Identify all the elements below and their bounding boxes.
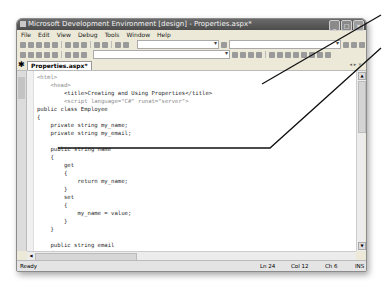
favorites-icon[interactable] — [73, 52, 79, 58]
undo-icon[interactable] — [94, 42, 100, 48]
code-line: get — [37, 161, 212, 169]
add-item-icon[interactable] — [28, 42, 34, 48]
code-line: public string email — [37, 241, 212, 249]
tab-nav-controls[interactable]: ◂ ▸ × — [350, 61, 362, 67]
window-title: Microsoft Development Environment [desig… — [28, 20, 252, 28]
align-right-icon[interactable] — [248, 52, 254, 58]
code-line: <head> — [37, 81, 212, 89]
scroll-left-arrow[interactable]: ◀ — [28, 253, 34, 259]
align-center-icon[interactable] — [240, 52, 246, 58]
find-icon[interactable] — [221, 42, 227, 48]
properties-icon[interactable] — [351, 42, 357, 48]
menu-view[interactable]: View — [57, 30, 71, 39]
title-bar[interactable]: Microsoft Development Environment [desig… — [17, 19, 366, 30]
status-mode: INS — [355, 261, 364, 271]
toolbar-separator — [265, 51, 266, 58]
vertical-scrollbar[interactable]: ▲ ▼ — [356, 71, 365, 251]
horizontal-scrollbar[interactable]: ◀ — [27, 251, 356, 260]
back-icon[interactable] — [20, 52, 26, 58]
code-line: { — [37, 201, 212, 209]
toolbar-separator — [61, 51, 62, 58]
code-line: } — [37, 225, 212, 233]
code-line: my_name = value; — [37, 209, 212, 217]
menu-bar: File Edit View Debug Tools Window Help — [17, 30, 366, 39]
code-line: } — [37, 217, 212, 225]
font-icon[interactable] — [81, 52, 87, 58]
clear-bookmarks-icon[interactable] — [325, 52, 331, 58]
toolbar-separator — [111, 41, 112, 48]
status-bar: Ready Ln 24 Col 12 Ch 6 INS — [17, 260, 366, 271]
code-line: <script language="C#" runat="server"> — [37, 97, 212, 105]
menu-file[interactable]: File — [21, 30, 31, 39]
code-line: { — [37, 113, 212, 121]
formatting-toolbar — [17, 50, 366, 59]
code-line: ​ — [37, 137, 212, 145]
home-icon[interactable] — [52, 52, 58, 58]
code-line: } — [37, 185, 212, 193]
refresh-icon[interactable] — [44, 52, 50, 58]
code-line: private string my_name; — [37, 121, 212, 129]
toolbox-sidebar[interactable] — [17, 71, 27, 251]
start-icon[interactable] — [123, 42, 129, 48]
scroll-up-arrow[interactable]: ▲ — [358, 72, 366, 80]
status-text: Ready — [20, 261, 37, 271]
forward-icon[interactable] — [28, 52, 34, 58]
tab-properties-aspx[interactable]: Properties.aspx* — [27, 61, 92, 70]
code-line: public class Employee — [37, 105, 212, 113]
code-line: public string name — [37, 145, 212, 153]
open-icon[interactable] — [36, 42, 42, 48]
search-icon[interactable] — [65, 52, 71, 58]
save-all-icon[interactable] — [52, 42, 58, 48]
status-line: Ln 24 — [260, 261, 275, 271]
outdent-icon[interactable] — [277, 52, 283, 58]
cut-icon[interactable] — [65, 42, 71, 48]
code-line: { — [37, 153, 212, 161]
stop-icon[interactable] — [36, 52, 42, 58]
scroll-down-arrow[interactable]: ▼ — [358, 242, 366, 250]
status-column: Col 12 — [291, 261, 308, 271]
menu-edit[interactable]: Edit — [38, 30, 50, 39]
standard-toolbar — [17, 40, 366, 49]
uncomment-icon[interactable] — [293, 52, 299, 58]
solution-config-combo[interactable] — [137, 40, 219, 49]
code-line: { — [37, 169, 212, 177]
redo-icon[interactable] — [102, 42, 108, 48]
status-char: Ch 6 — [325, 261, 338, 271]
new-project-icon[interactable] — [20, 42, 26, 48]
toolbar-separator — [61, 41, 62, 48]
toolbox-icon[interactable]: ✱ — [18, 61, 25, 69]
code-text[interactable]: <html> <head> <title>Creating and Using … — [37, 73, 212, 251]
code-line: ​ — [37, 233, 212, 241]
prev-bookmark-icon[interactable] — [317, 52, 323, 58]
navigate-icon[interactable] — [115, 42, 121, 48]
comment-icon[interactable] — [285, 52, 291, 58]
copy-icon[interactable] — [73, 42, 79, 48]
code-line: return my_name; — [37, 177, 212, 185]
toolbox-button-icon[interactable] — [359, 42, 365, 48]
code-line: <title>Creating and Using Properties</ti… — [37, 89, 212, 97]
toolbox-vertical-label[interactable] — [18, 77, 25, 99]
find-combo[interactable] — [229, 40, 341, 49]
url-combo[interactable] — [93, 50, 230, 59]
ide-window: Microsoft Development Environment [desig… — [16, 18, 367, 272]
solution-explorer-icon[interactable] — [343, 42, 349, 48]
code-editor[interactable]: <html> <head> <title>Creating and Using … — [27, 71, 356, 251]
next-bookmark-icon[interactable] — [309, 52, 315, 58]
menu-debug[interactable]: Debug — [78, 30, 98, 39]
menu-tools[interactable]: Tools — [105, 30, 120, 39]
code-line: set — [37, 193, 212, 201]
code-line: private string my_email; — [37, 129, 212, 137]
text-color-icon[interactable] — [256, 52, 262, 58]
document-tab-strip: ✱ Properties.aspx* ◂ ▸ × — [17, 60, 366, 71]
save-icon[interactable] — [44, 42, 50, 48]
app-icon — [20, 21, 26, 27]
code-line: <html> — [37, 73, 212, 81]
menu-window[interactable]: Window — [126, 30, 150, 39]
bookmark-icon[interactable] — [301, 52, 307, 58]
toolbar-separator — [90, 41, 91, 48]
indent-icon[interactable] — [269, 52, 275, 58]
align-left-icon[interactable] — [232, 52, 238, 58]
paste-icon[interactable] — [81, 42, 87, 48]
menu-help[interactable]: Help — [157, 30, 171, 39]
vertical-scroll-thumb[interactable] — [358, 81, 366, 133]
